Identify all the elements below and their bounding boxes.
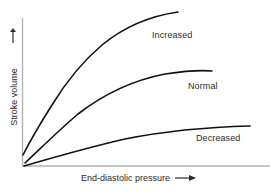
curve-label-increased: Increased xyxy=(152,30,192,40)
arrow-up-icon xyxy=(8,28,22,44)
y-axis-label-text: Stroke volume xyxy=(9,68,19,126)
plot-area xyxy=(0,0,278,194)
frank-starling-curve-figure: Increased Normal Decreased End-diastolic… xyxy=(0,0,278,194)
curve-label-normal: Normal xyxy=(188,81,218,91)
curve-label-decreased: Decreased xyxy=(196,133,240,143)
x-axis-label-group: End-diastolic pressure xyxy=(0,173,278,184)
x-axis-label-text: End-diastolic pressure xyxy=(81,173,170,183)
curve-normal xyxy=(25,71,212,163)
y-axis-label-group: Stroke volume xyxy=(5,42,23,152)
arrow-right-icon xyxy=(175,174,197,184)
